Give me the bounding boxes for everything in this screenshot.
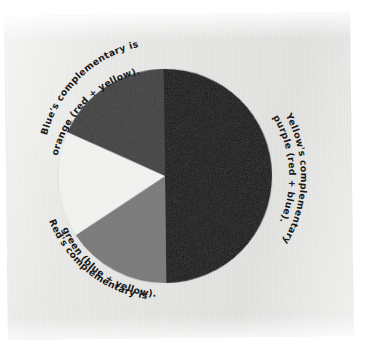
- pie-chart-svg: Blue's complementary is orange (red + ye…: [0, 0, 367, 356]
- pie-diagram-figure: Blue's complementary is orange (red + ye…: [0, 0, 367, 356]
- screenshot-root: Blue's complementary is orange (red + ye…: [0, 0, 367, 356]
- pie-slice-black-half[interactable]: [164, 68, 274, 283]
